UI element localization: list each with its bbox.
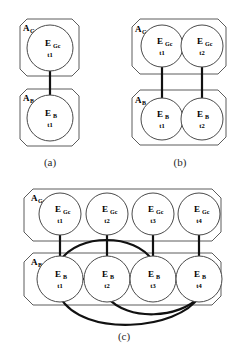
node-c-egc-t1-time: t1 [57, 217, 62, 224]
panel-a: A Gc A B E Gc t1 E B [20, 19, 79, 169]
node-c-eb-t3-label-sub: B [156, 274, 160, 280]
node-b-egc-t1-label-sub: Gc [165, 41, 173, 47]
node-a-egc-t1-label: E [45, 38, 51, 48]
panel-b: A Gc A B E Gc t1 E [132, 19, 226, 169]
diagram-canvas: A Gc A B E Gc t1 E B [0, 0, 248, 355]
node-c-eb-t1-circle [37, 256, 83, 302]
container-a-agc-label: A [23, 23, 30, 33]
node-b-egc-t1-label: E [157, 36, 163, 46]
node-c-egc-t3-label: E [148, 204, 154, 214]
container-c-ab-label: A [31, 257, 38, 267]
node-b-eb-t1-time: t1 [159, 122, 164, 129]
node-b-egc-t1-circle [141, 25, 183, 67]
node-c-egc-t4-label-sub: Gc [202, 209, 210, 215]
node-a-egc-t1: E Gc t1 [27, 25, 73, 71]
container-b-ab-label: A [135, 95, 142, 105]
node-b-eb-t1-label-sub: B [165, 114, 169, 120]
node-a-egc-t1-time: t1 [47, 51, 52, 58]
node-a-egc-t1-circle [27, 25, 73, 71]
node-c-eb-t1-label-sub: B [63, 274, 67, 280]
container-b-agc-label: A [135, 24, 142, 34]
node-c-eb-t2: E B t2 [84, 256, 130, 302]
node-a-eb-t1-time: t1 [47, 121, 52, 128]
node-c-egc-t2-time: t2 [104, 217, 109, 224]
container-c-agc-label: A [31, 193, 38, 203]
node-c-eb-t2-label: E [102, 269, 108, 279]
node-c-eb-t3-circle [130, 256, 176, 302]
node-b-egc-t2-time: t2 [199, 49, 204, 56]
node-a-eb-t1: E B t1 [27, 95, 73, 141]
node-b-eb-t1-label: E [157, 109, 163, 119]
node-c-eb-t4: E B t4 [176, 256, 222, 302]
node-c-eb-t3-label: E [148, 269, 154, 279]
node-c-eb-t2-circle [84, 256, 130, 302]
panel-b-caption: (b) [174, 156, 187, 169]
node-c-eb-t1-time: t1 [57, 282, 62, 289]
node-c-eb-t4-label-sub: B [202, 274, 206, 280]
node-b-eb-t2-label: E [197, 109, 203, 119]
node-c-eb-t4-label: E [194, 269, 200, 279]
node-c-egc-t2-label: E [102, 204, 108, 214]
node-c-egc-t4-label: E [194, 204, 200, 214]
node-b-eb-t1-circle [141, 98, 183, 140]
node-c-eb-t2-time: t2 [104, 282, 109, 289]
node-b-egc-t1-time: t1 [159, 49, 164, 56]
node-a-eb-t1-circle [27, 95, 73, 141]
node-c-egc-t3-time: t3 [150, 217, 156, 224]
node-c-egc-t1-label-sub: Gc [63, 209, 71, 215]
node-c-eb-t4-circle [176, 256, 222, 302]
node-b-egc-t2-label-sub: Gc [205, 41, 213, 47]
container-b-ab-label-sub: B [142, 100, 146, 106]
panel-c: A Gc A B E [24, 189, 222, 343]
panel-c-caption: (c) [118, 330, 131, 343]
node-c-eb-t4-time: t4 [196, 282, 202, 289]
node-b-egc-t1: E Gc t1 [141, 25, 183, 67]
node-c-eb-t1-label: E [55, 269, 61, 279]
node-c-egc-t1-circle [39, 193, 81, 235]
node-b-eb-t2-label-sub: B [205, 114, 209, 120]
node-c-egc-t2: E Gc t2 [86, 193, 128, 235]
node-b-egc-t2-circle [181, 25, 223, 67]
node-a-eb-t1-label: E [45, 108, 51, 118]
node-c-eb-t1: E B t1 [37, 256, 83, 302]
node-c-egc-t4-circle [178, 193, 220, 235]
node-b-eb-t2-circle [181, 98, 223, 140]
node-a-eb-t1-label-sub: B [53, 113, 57, 119]
node-c-eb-t3: E B t3 [130, 256, 176, 302]
node-c-eb-t2-label-sub: B [110, 274, 114, 280]
node-c-eb-t3-time: t3 [150, 282, 156, 289]
node-c-egc-t2-label-sub: Gc [110, 209, 118, 215]
node-c-egc-t3-label-sub: Gc [156, 209, 164, 215]
node-c-egc-t3: E Gc t3 [132, 193, 174, 235]
node-c-egc-t2-circle [86, 193, 128, 235]
node-a-egc-t1-label-sub: Gc [53, 43, 61, 49]
node-c-egc-t1-label: E [55, 204, 61, 214]
node-b-egc-t2: E Gc t2 [181, 25, 223, 67]
node-c-egc-t3-circle [132, 193, 174, 235]
node-b-eb-t2: E B t2 [181, 98, 223, 140]
node-b-eb-t1: E B t1 [141, 98, 183, 140]
figure-root: A Gc A B E Gc t1 E B [0, 0, 248, 355]
node-c-egc-t4-time: t4 [196, 217, 202, 224]
node-c-egc-t4: E Gc t4 [178, 193, 220, 235]
node-c-egc-t1: E Gc t1 [39, 193, 81, 235]
panel-a-caption: (a) [44, 156, 57, 169]
container-a-ab-label: A [23, 93, 30, 103]
node-b-egc-t2-label: E [197, 36, 203, 46]
node-b-eb-t2-time: t2 [199, 122, 204, 129]
